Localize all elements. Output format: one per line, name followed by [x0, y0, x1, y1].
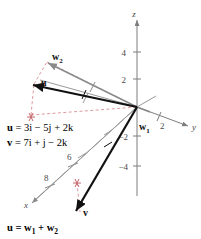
vector-diagram-svg: z y x 4 2 −2 −4 2 6 8	[0, 0, 201, 239]
equation-u-definition: u = 3i − 5j + 2k	[7, 122, 74, 133]
equation-v-definition: v = 7i + j − 2k	[7, 137, 68, 148]
x-axis-label: x	[23, 200, 28, 210]
x-tick-label-6: 6	[67, 152, 72, 162]
x-tick-label-8: 8	[44, 173, 49, 183]
z-tick-label-2: 2	[122, 75, 127, 85]
vector-diagram-figure: z y x 4 2 −2 −4 2 6 8	[0, 0, 201, 239]
z-tick-label-neg4: −4	[118, 162, 128, 172]
y-tick-label-2: 2	[160, 121, 165, 131]
vector-v-label: v	[83, 207, 88, 218]
z-tick-label-4: 4	[122, 48, 127, 58]
vector-u-label: u	[41, 77, 47, 88]
y-axis-label: y	[191, 122, 196, 132]
z-axis-label: z	[131, 9, 136, 19]
